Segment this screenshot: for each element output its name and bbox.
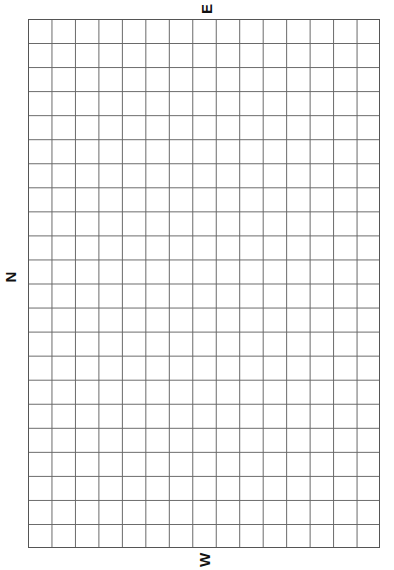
grid-area [28, 19, 380, 548]
compass-label-east: E [199, 1, 215, 17]
compass-label-west: W [197, 552, 213, 568]
compass-label-north: N [3, 269, 19, 285]
